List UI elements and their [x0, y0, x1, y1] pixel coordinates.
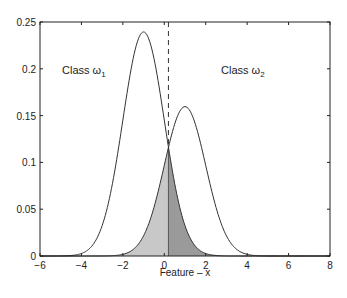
- class-2-label: Class ω2: [221, 64, 265, 79]
- y-tick-label: 0.15: [17, 111, 37, 122]
- x-tick-label: −6: [34, 260, 46, 271]
- x-tick-label: −4: [76, 260, 88, 271]
- plot-frame: [40, 22, 330, 256]
- class-1-error-right-of-threshold: [168, 147, 330, 256]
- class-2-error-left-of-threshold: [40, 148, 168, 256]
- y-tick-label: 0.1: [22, 157, 36, 168]
- x-tick-label: 4: [244, 260, 250, 271]
- x-tick-label: 8: [327, 260, 333, 271]
- x-tick-label: 6: [286, 260, 292, 271]
- class-1-label: Class ω1: [62, 64, 106, 79]
- x-axis-label: Feature – x: [160, 267, 211, 278]
- pdf-chart: −6−4−202468 00.050.10.150.20.25 Feature …: [0, 0, 347, 298]
- y-tick-label: 0.2: [22, 64, 36, 75]
- x-tick-label: −2: [117, 260, 129, 271]
- y-tick-label: 0: [30, 251, 36, 262]
- error-shading: [40, 147, 330, 256]
- y-tick-label: 0.25: [17, 17, 37, 28]
- y-tick-label: 0.05: [17, 204, 37, 215]
